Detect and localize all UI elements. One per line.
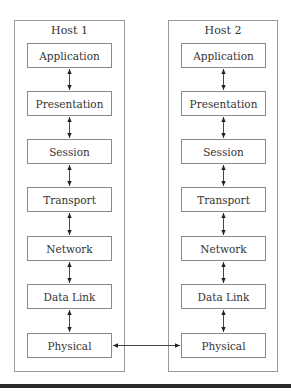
bottom-rule bbox=[0, 384, 291, 388]
connector-arrows bbox=[0, 0, 291, 392]
